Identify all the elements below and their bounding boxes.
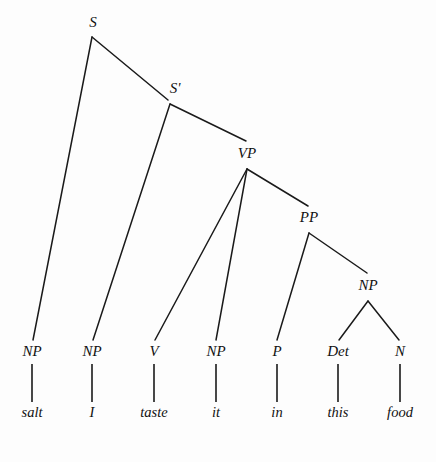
branch-sbar-to-np-i — [93, 104, 170, 340]
preterminal-label-in: P — [271, 343, 281, 359]
preterminal-label-this: Det — [326, 343, 349, 359]
preterminal-label-it: NP — [205, 343, 225, 359]
branch-vp-to-pp — [247, 169, 308, 206]
terminal-word-I: I — [89, 404, 96, 420]
preterminal-label-taste: V — [149, 343, 160, 359]
syntax-tree-figure: SS'VPPPNP NPNPVNPPDetN saltItasteitinthi… — [0, 0, 436, 462]
branch-vp-to-np-it — [216, 169, 247, 340]
branch-layer — [33, 37, 399, 340]
node-label-s: S — [89, 14, 97, 30]
branch-pp-to-np — [309, 233, 367, 273]
terminal-word-salt: salt — [22, 404, 44, 420]
branch-pp-to-p — [277, 233, 309, 340]
preterminal-label-layer: NPNPVNPPDetN — [21, 343, 406, 359]
branch-sbar-to-vp — [170, 104, 246, 141]
node-label-np_inner: NP — [357, 277, 377, 293]
terminal-word-layer: saltItasteitinthisfood — [22, 404, 414, 420]
syntax-tree-canvas: SS'VPPPNP NPNPVNPPDetN saltItasteitinthi… — [0, 0, 436, 462]
node-label-vp: VP — [238, 145, 256, 161]
node-label-sbar: S' — [170, 80, 182, 96]
preterminal-label-salt: NP — [21, 343, 41, 359]
terminal-word-food: food — [387, 404, 414, 420]
branch-np-to-n — [368, 301, 399, 340]
branch-vp-to-v — [155, 169, 247, 340]
terminal-word-it: it — [212, 404, 221, 420]
stem-layer — [32, 364, 400, 402]
preterminal-label-food: N — [394, 343, 406, 359]
node-label-pp: PP — [299, 209, 318, 225]
branch-s-to-np-salt — [33, 37, 92, 340]
branch-np-to-det — [339, 301, 368, 340]
terminal-word-in: in — [271, 404, 282, 420]
branch-s-to-sbar — [92, 37, 168, 100]
terminal-word-taste: taste — [140, 404, 168, 420]
terminal-word-this: this — [328, 404, 349, 420]
preterminal-label-I: NP — [81, 343, 101, 359]
